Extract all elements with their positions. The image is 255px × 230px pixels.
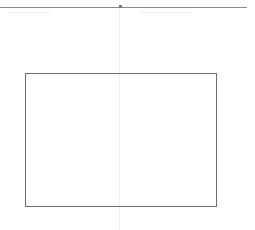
faint-guide-mark — [140, 12, 190, 13]
drawing-canvas[interactable] — [0, 0, 255, 230]
top-rule-line — [0, 7, 247, 8]
faint-guide-mark — [10, 12, 50, 13]
rule-marker-icon[interactable] — [119, 5, 122, 8]
rectangle-shape[interactable] — [25, 73, 217, 207]
